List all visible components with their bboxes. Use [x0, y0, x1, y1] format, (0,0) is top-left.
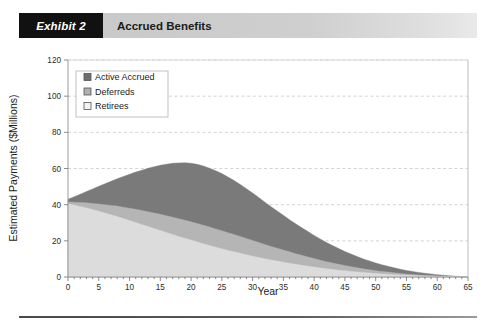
x-tick-label: 20 [187, 283, 197, 292]
y-tick-label: 60 [52, 165, 62, 174]
y-tick-label: 0 [56, 273, 61, 282]
y-tick-label: 120 [47, 56, 61, 65]
y-tick-label: 80 [52, 128, 62, 137]
x-tick-label: 0 [66, 283, 71, 292]
legend-swatch [84, 74, 91, 81]
y-tick-label: 40 [52, 201, 62, 210]
legend-label: Retirees [95, 101, 129, 111]
exhibit-number-tag: Exhibit 2 [19, 13, 103, 38]
y-axis-title: Estimated Payments ($Millions) [7, 94, 19, 241]
exhibit-page: Exhibit 2 Accrued Benefits 0510152025303… [0, 0, 496, 332]
x-tick-label: 55 [402, 283, 412, 292]
x-tick-label: 5 [96, 283, 101, 292]
x-tick-label: 35 [279, 283, 289, 292]
x-tick-label: 25 [217, 283, 227, 292]
exhibit-title: Accrued Benefits [103, 13, 477, 38]
x-tick-label: 40 [310, 283, 320, 292]
y-axis-tick-labels: 020406080100120 [47, 56, 61, 282]
x-tick-label: 10 [125, 283, 135, 292]
footer-divider [19, 316, 477, 318]
x-tick-label: 65 [463, 283, 473, 292]
x-tick-label: 30 [248, 283, 258, 292]
legend-label: Active Accrued [95, 72, 155, 82]
y-tick-label: 20 [52, 237, 62, 246]
y-tick-label: 100 [47, 92, 61, 101]
stacked-area-chart: 05101520253035404550556065 0204060801001… [0, 46, 496, 298]
x-tick-label: 45 [340, 283, 350, 292]
legend-label: Deferreds [95, 87, 135, 97]
chart-container: 05101520253035404550556065 0204060801001… [0, 46, 496, 298]
legend-swatch [84, 103, 91, 110]
exhibit-header: Exhibit 2 Accrued Benefits [19, 13, 477, 38]
chart-legend: Active AccruedDeferredsRetirees [76, 71, 168, 117]
x-tick-label: 50 [371, 283, 381, 292]
x-tick-label: 60 [433, 283, 443, 292]
y-axis-ticks [64, 60, 68, 277]
x-axis-ticks [68, 277, 468, 281]
legend-swatch [84, 88, 91, 95]
x-axis-title: Year [257, 285, 279, 297]
x-tick-label: 15 [156, 283, 166, 292]
